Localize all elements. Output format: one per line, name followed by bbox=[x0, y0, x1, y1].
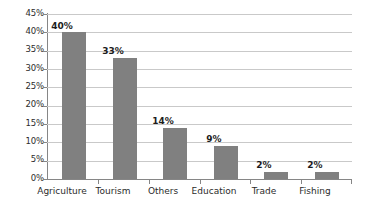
y-axis-tick-label: 45% bbox=[10, 9, 44, 18]
x-axis-tick-mark bbox=[301, 180, 302, 184]
gridline bbox=[47, 32, 352, 33]
x-axis-category-label-education: Education bbox=[189, 186, 239, 197]
bar-education[interactable] bbox=[214, 146, 238, 179]
x-axis-category-label-trade: Trade bbox=[239, 186, 289, 197]
x-axis-tick-mark bbox=[149, 180, 150, 184]
bar-value-label: 2% bbox=[244, 160, 284, 170]
bar-fishing[interactable] bbox=[315, 172, 339, 179]
y-axis-tick-labels: 45% 40% 35% 30% 25% 20% 15% 10% 5% 0% bbox=[10, 0, 44, 216]
bar-others[interactable] bbox=[163, 128, 187, 179]
gridline bbox=[47, 87, 352, 88]
plot-area bbox=[47, 14, 352, 179]
bar-trade[interactable] bbox=[264, 172, 288, 179]
x-axis-category-label-others: Others bbox=[138, 186, 188, 197]
y-axis-tick-label: 0% bbox=[10, 174, 44, 183]
bar-agriculture[interactable] bbox=[62, 32, 86, 179]
y-axis-tick-label: 25% bbox=[10, 82, 44, 91]
bar-chart: 45% 40% 35% 30% 25% 20% 15% 10% 5% 0% bbox=[0, 0, 366, 216]
x-axis-tick-mark bbox=[351, 180, 352, 184]
x-axis-category-label-tourism: Tourism bbox=[88, 186, 138, 197]
bar-value-label: 9% bbox=[194, 134, 234, 144]
x-axis-tick-mark bbox=[200, 180, 201, 184]
bar-value-label: 40% bbox=[42, 21, 82, 31]
y-axis-tick-label: 40% bbox=[10, 27, 44, 36]
gridline bbox=[47, 69, 352, 70]
y-axis-tick-label: 15% bbox=[10, 119, 44, 128]
y-axis-tick-label: 35% bbox=[10, 45, 44, 54]
y-axis-tick-label: 5% bbox=[10, 155, 44, 164]
bar-value-label: 14% bbox=[143, 116, 183, 126]
bar-value-label: 2% bbox=[295, 160, 335, 170]
gridline bbox=[47, 106, 352, 107]
y-axis-tick-label: 10% bbox=[10, 137, 44, 146]
x-axis-tick-mark bbox=[250, 180, 251, 184]
y-axis-tick-label: 30% bbox=[10, 64, 44, 73]
x-axis-category-label-fishing: Fishing bbox=[290, 186, 340, 197]
bar-value-label: 33% bbox=[93, 46, 133, 56]
x-axis-category-label-agriculture: Agriculture bbox=[37, 186, 87, 197]
y-axis-tick-label: 20% bbox=[10, 100, 44, 109]
gridline bbox=[47, 124, 352, 125]
gridline bbox=[47, 14, 352, 15]
bar-tourism[interactable] bbox=[113, 58, 137, 179]
x-axis-tick-mark bbox=[98, 180, 99, 184]
